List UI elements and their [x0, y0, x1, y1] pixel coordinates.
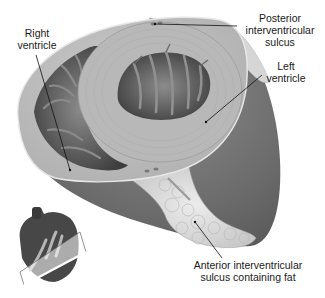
label-right-ventricle: Right ventricle — [12, 27, 62, 51]
label-left-ventricle-line1: Left — [258, 60, 314, 72]
label-posterior-interventricular-sulcus: Posterior interventricular sulcus — [238, 12, 322, 48]
orientation-inset — [20, 207, 86, 285]
label-posterior-line2: interventricular — [238, 24, 322, 36]
label-anterior-line1: Anterior interventricular — [184, 259, 312, 271]
label-posterior-line1: Posterior — [238, 12, 322, 24]
label-left-ventricle: Left ventricle — [258, 60, 314, 84]
label-right-ventricle-line2: ventricle — [12, 39, 62, 51]
label-left-ventricle-line2: ventricle — [258, 72, 314, 84]
label-anterior-line2: sulcus containing fat — [184, 271, 312, 283]
label-anterior-interventricular-sulcus: Anterior interventricular sulcus contain… — [184, 259, 312, 283]
label-posterior-line3: sulcus — [238, 36, 322, 48]
label-right-ventricle-line1: Right — [12, 27, 62, 39]
inset-aorta-icon — [32, 207, 41, 219]
